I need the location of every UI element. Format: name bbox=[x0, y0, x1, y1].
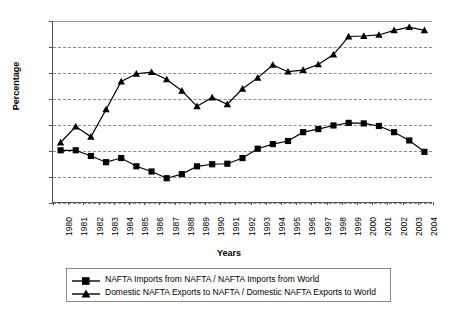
x-tick-label: 1981 bbox=[79, 196, 89, 236]
data-point bbox=[255, 146, 261, 152]
data-point bbox=[163, 76, 170, 83]
data-point bbox=[179, 171, 185, 177]
data-point bbox=[406, 23, 413, 30]
data-point bbox=[178, 87, 185, 94]
x-tick-label: 1991 bbox=[231, 196, 241, 236]
data-point bbox=[194, 163, 200, 169]
x-tick-label: 1992 bbox=[247, 196, 257, 236]
x-tick-label: 1982 bbox=[95, 196, 105, 236]
data-point bbox=[406, 137, 412, 143]
plot-area: 25%30%35%40%45%50%55%60% 198019811982198… bbox=[52, 21, 432, 203]
x-tick-label: 1985 bbox=[140, 196, 150, 236]
x-tick-label: 1997 bbox=[323, 196, 333, 236]
data-point bbox=[133, 163, 139, 169]
x-tick-label: 1996 bbox=[307, 196, 317, 236]
data-point bbox=[57, 147, 63, 153]
legend-label-imports: NAFTA Imports from NAFTA / NAFTA Imports… bbox=[105, 274, 319, 284]
data-point bbox=[208, 94, 215, 101]
data-point bbox=[148, 68, 155, 75]
data-point bbox=[72, 123, 79, 130]
series-line bbox=[61, 123, 425, 178]
square-marker-icon bbox=[71, 273, 101, 285]
triangle-marker-icon bbox=[71, 286, 101, 298]
data-point bbox=[148, 168, 154, 174]
legend-item-imports: NAFTA Imports from NAFTA / NAFTA Imports… bbox=[71, 272, 386, 285]
x-axis-title: Years bbox=[0, 248, 458, 258]
data-point bbox=[361, 120, 367, 126]
x-tick-label: 2002 bbox=[399, 196, 409, 236]
x-tick-label: 1998 bbox=[338, 196, 348, 236]
data-point bbox=[270, 141, 276, 147]
x-tick-label: 2001 bbox=[383, 196, 393, 236]
chart-legend: NAFTA Imports from NAFTA / NAFTA Imports… bbox=[66, 268, 391, 302]
data-point bbox=[87, 133, 94, 140]
data-point bbox=[376, 123, 382, 129]
x-tick-label: 1986 bbox=[155, 196, 165, 236]
legend-label-exports: Domestic NAFTA Exports to NAFTA / Domest… bbox=[105, 287, 376, 297]
data-point bbox=[315, 126, 321, 132]
data-point bbox=[300, 129, 306, 135]
data-point bbox=[239, 155, 245, 161]
data-point bbox=[118, 155, 124, 161]
data-point bbox=[315, 61, 322, 68]
x-tick-label: 1988 bbox=[186, 196, 196, 236]
data-point bbox=[224, 161, 230, 167]
x-tick-mark bbox=[53, 202, 54, 205]
series-svg bbox=[53, 21, 432, 202]
data-point bbox=[269, 61, 276, 68]
x-tick-label: 1980 bbox=[64, 196, 74, 236]
x-tick-label: 1983 bbox=[110, 196, 120, 236]
data-point bbox=[209, 161, 215, 167]
x-tick-label: 2004 bbox=[429, 196, 439, 236]
x-tick-label: 1995 bbox=[292, 196, 302, 236]
data-point bbox=[346, 120, 352, 126]
data-point bbox=[102, 106, 109, 113]
data-point bbox=[330, 122, 336, 128]
x-tick-label: 1984 bbox=[125, 196, 135, 236]
x-tick-label: 1987 bbox=[171, 196, 181, 236]
series-imports bbox=[57, 120, 427, 182]
data-point bbox=[421, 149, 427, 155]
x-tick-label: 1994 bbox=[277, 196, 287, 236]
x-tick-label: 1989 bbox=[201, 196, 211, 236]
data-point bbox=[73, 147, 79, 153]
x-tick-label: 1993 bbox=[262, 196, 272, 236]
series-line bbox=[61, 27, 425, 142]
legend-item-exports: Domestic NAFTA Exports to NAFTA / Domest… bbox=[71, 285, 386, 298]
y-axis-title: Percentage bbox=[11, 41, 27, 131]
data-point bbox=[118, 78, 125, 85]
chart-figure: Percentage 25%30%35%40%45%50%55%60% 1980… bbox=[0, 0, 458, 311]
x-tick-label: 1990 bbox=[216, 196, 226, 236]
data-point bbox=[88, 153, 94, 159]
data-point bbox=[103, 159, 109, 165]
data-point bbox=[239, 85, 246, 92]
x-tick-label: 2003 bbox=[414, 196, 424, 236]
series-exports bbox=[57, 23, 428, 145]
x-tick-label: 2000 bbox=[368, 196, 378, 236]
data-point bbox=[391, 129, 397, 135]
data-point bbox=[164, 175, 170, 181]
data-point bbox=[285, 138, 291, 144]
x-tick-label: 1999 bbox=[353, 196, 363, 236]
